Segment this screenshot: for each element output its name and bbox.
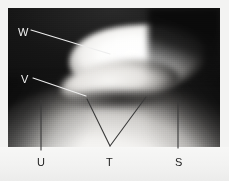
figure-container: WVUTS	[0, 0, 229, 181]
film-grain-texture	[8, 8, 220, 147]
bottom-margin-band	[0, 147, 229, 181]
radiographic-image-plate	[8, 8, 220, 147]
